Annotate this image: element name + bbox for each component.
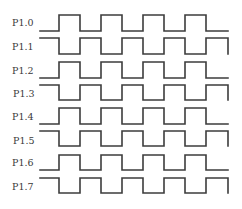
square-wave [40,108,228,124]
signal-row-p1-5: P1.5 [13,131,228,146]
signal-label: P1.0 [12,17,34,28]
square-wave [40,85,228,100]
signal-label: P1.3 [13,88,35,99]
signal-row-p1-4: P1.4 [12,108,228,124]
square-wave [40,178,228,193]
square-wave [40,15,228,31]
square-wave [40,155,228,170]
signal-label: P1.6 [12,157,34,168]
signal-label: P1.1 [12,41,34,52]
signal-row-p1-3: P1.3 [13,85,228,100]
signal-row-p1-1: P1.1 [12,38,228,54]
signal-label: P1.2 [12,65,34,76]
square-wave [40,38,228,54]
signal-row-p1-0: P1.0 [12,15,228,31]
timing-diagram: P1.0 P1.1 P1.2 P1.3 P1.4 P1.5 P1.6 P1.7 [0,0,242,209]
signal-row-p1-2: P1.2 [12,62,228,78]
square-wave [40,62,228,78]
signal-row-p1-6: P1.6 [12,155,228,170]
signal-label: P1.5 [13,135,35,146]
signal-label: P1.7 [12,181,34,192]
signal-label: P1.4 [12,111,34,122]
square-wave [40,131,228,146]
signal-row-p1-7: P1.7 [12,178,228,193]
